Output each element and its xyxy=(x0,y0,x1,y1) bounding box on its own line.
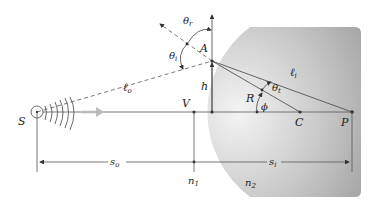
label-theta-i: θi xyxy=(169,50,177,63)
propagation-arrow-icon xyxy=(82,107,104,117)
label-p: P xyxy=(340,116,349,129)
label-v: V xyxy=(182,97,191,110)
label-c: C xyxy=(295,116,304,129)
point-c xyxy=(298,110,301,113)
wavefronts-icon xyxy=(45,97,74,130)
point-reflect xyxy=(186,43,189,46)
label-h: h xyxy=(201,80,208,93)
label-theta-r: θr xyxy=(183,15,193,28)
label-n1: n1 xyxy=(188,175,199,188)
point-phi xyxy=(256,111,259,114)
point-a xyxy=(210,59,213,62)
label-s: S xyxy=(18,115,26,128)
refraction-diagram: θr θi A ℓo h R θt ϕ ℓi V S C P so si n1 … xyxy=(0,0,380,209)
label-phi: ϕ xyxy=(261,101,268,112)
theta-i-arc xyxy=(180,44,187,69)
label-s-o: so xyxy=(110,156,119,169)
label-a: A xyxy=(199,42,208,55)
point-theta-t xyxy=(261,89,264,92)
label-l-o: ℓo xyxy=(123,81,132,95)
label-r: R xyxy=(245,92,254,105)
